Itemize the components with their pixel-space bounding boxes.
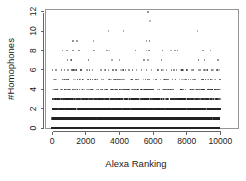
data-point bbox=[171, 98, 173, 100]
data-point bbox=[119, 59, 121, 61]
data-point bbox=[147, 59, 149, 61]
data-point bbox=[101, 79, 102, 81]
data-point bbox=[144, 89, 145, 91]
data-point bbox=[118, 117, 120, 119]
data-point bbox=[205, 79, 206, 81]
data-point bbox=[89, 108, 91, 110]
data-point bbox=[59, 108, 61, 110]
data-point bbox=[64, 79, 65, 81]
data-point bbox=[203, 69, 204, 71]
data-point bbox=[201, 117, 203, 119]
data-point bbox=[211, 108, 213, 110]
data-point bbox=[198, 89, 199, 91]
data-point bbox=[121, 89, 122, 91]
data-point bbox=[100, 98, 102, 100]
data-point bbox=[142, 127, 144, 129]
data-point bbox=[73, 98, 75, 100]
data-point bbox=[188, 79, 189, 81]
data-point bbox=[199, 69, 201, 71]
data-point bbox=[142, 98, 144, 100]
data-point bbox=[64, 89, 65, 91]
data-point bbox=[159, 108, 161, 110]
data-point bbox=[166, 69, 168, 71]
data-point bbox=[111, 89, 112, 91]
data-point bbox=[98, 117, 100, 119]
data-point bbox=[197, 30, 199, 32]
data-point bbox=[179, 127, 181, 129]
data-point bbox=[207, 69, 208, 71]
y-tick-label: 12 bbox=[28, 7, 38, 17]
data-point bbox=[180, 98, 182, 100]
data-point bbox=[181, 79, 182, 81]
data-point bbox=[109, 50, 111, 52]
data-point bbox=[102, 89, 103, 91]
data-point bbox=[176, 69, 178, 71]
data-point bbox=[190, 117, 192, 119]
data-point bbox=[147, 11, 149, 13]
data-point bbox=[218, 108, 220, 110]
data-point bbox=[54, 98, 56, 100]
data-point bbox=[185, 127, 187, 129]
data-point bbox=[95, 127, 97, 129]
data-point bbox=[71, 59, 73, 61]
data-point bbox=[82, 89, 83, 91]
data-point bbox=[70, 127, 72, 129]
data-point bbox=[182, 117, 184, 119]
data-point bbox=[126, 127, 128, 129]
data-point bbox=[145, 108, 147, 110]
data-point bbox=[214, 89, 215, 91]
data-point bbox=[104, 108, 106, 110]
data-point bbox=[108, 79, 109, 81]
data-point bbox=[123, 30, 125, 32]
data-point bbox=[110, 79, 111, 81]
data-point bbox=[79, 108, 81, 110]
data-point bbox=[100, 108, 102, 110]
x-tick-label: 10000 bbox=[209, 136, 233, 146]
data-point bbox=[100, 69, 102, 71]
data-point bbox=[212, 89, 213, 91]
data-point bbox=[102, 108, 104, 110]
data-point bbox=[131, 79, 132, 81]
data-point bbox=[149, 79, 150, 81]
data-point bbox=[132, 89, 133, 91]
data-point bbox=[139, 117, 141, 119]
data-point bbox=[136, 69, 138, 71]
data-point bbox=[155, 127, 157, 129]
data-point bbox=[56, 127, 58, 129]
data-point bbox=[211, 98, 213, 100]
data-point bbox=[132, 69, 133, 71]
data-point bbox=[55, 98, 57, 100]
data-point bbox=[159, 117, 161, 119]
data-point bbox=[151, 98, 153, 100]
data-point bbox=[125, 117, 127, 119]
data-point bbox=[150, 98, 152, 100]
data-point bbox=[116, 127, 118, 129]
data-point bbox=[106, 50, 108, 52]
data-point bbox=[148, 117, 150, 119]
data-point bbox=[163, 89, 164, 91]
data-point bbox=[149, 89, 150, 91]
data-point bbox=[63, 127, 65, 129]
data-point bbox=[213, 69, 214, 71]
data-point bbox=[108, 30, 110, 32]
data-point bbox=[130, 79, 131, 81]
data-point bbox=[164, 108, 166, 110]
data-point bbox=[72, 98, 74, 100]
data-point bbox=[203, 108, 205, 110]
data-point bbox=[125, 89, 126, 91]
data-point bbox=[121, 98, 123, 100]
data-point bbox=[79, 89, 80, 91]
data-point bbox=[166, 79, 167, 81]
data-point bbox=[142, 117, 144, 119]
data-point bbox=[209, 89, 210, 91]
data-point bbox=[126, 98, 128, 100]
data-point bbox=[157, 98, 159, 100]
data-point bbox=[191, 89, 192, 91]
data-point bbox=[93, 50, 95, 52]
y-tick-label: 2 bbox=[28, 106, 38, 111]
data-point bbox=[198, 59, 200, 61]
data-point bbox=[85, 98, 87, 100]
data-point bbox=[198, 98, 200, 100]
data-point bbox=[212, 98, 214, 100]
data-point bbox=[184, 79, 185, 81]
